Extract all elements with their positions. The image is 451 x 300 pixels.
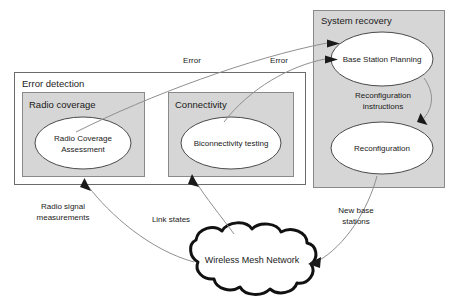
label-edge-error-2: Error <box>270 56 288 65</box>
label-connectivity: Connectivity <box>175 99 227 110</box>
label-error-detection: Error detection <box>22 78 84 89</box>
node-radio-coverage-assessment[interactable] <box>35 117 131 169</box>
label-radio-coverage: Radio coverage <box>29 99 96 110</box>
edge-radio-signal-measurements-path <box>88 186 194 262</box>
label-wireless-mesh-network: Wireless Mesh Network <box>205 255 300 265</box>
label-edge-reconfiguration-instructions-line2: instructions <box>363 102 403 111</box>
label-radio-coverage-assessment-line1: Radio Coverage <box>54 134 112 143</box>
label-base-station-planning: Base Station Planning <box>343 55 422 64</box>
label-edge-link-states: Link states <box>152 215 190 224</box>
label-edge-new-base-stations-line1: New base <box>338 206 374 215</box>
diagram-svg: Error detection Radio coverage Connectiv… <box>0 0 451 300</box>
label-system-recovery: System recovery <box>321 15 392 26</box>
label-reconfiguration: Reconfiguration <box>354 144 410 153</box>
label-edge-radio-signal-measurements-line2: measurements <box>37 213 90 222</box>
label-edge-radio-signal-measurements-line1: Radio signal <box>41 202 85 211</box>
label-radio-coverage-assessment-line2: Assessment <box>61 145 105 154</box>
label-edge-reconfiguration-instructions-line1: Reconfiguration <box>355 91 411 100</box>
diagram-canvas: Error detection Radio coverage Connectiv… <box>0 0 451 300</box>
label-edge-error-1: Error <box>183 56 201 65</box>
label-biconnectivity-testing: Biconnectivity testing <box>194 139 269 148</box>
label-edge-new-base-stations-line2: stations <box>342 217 370 226</box>
